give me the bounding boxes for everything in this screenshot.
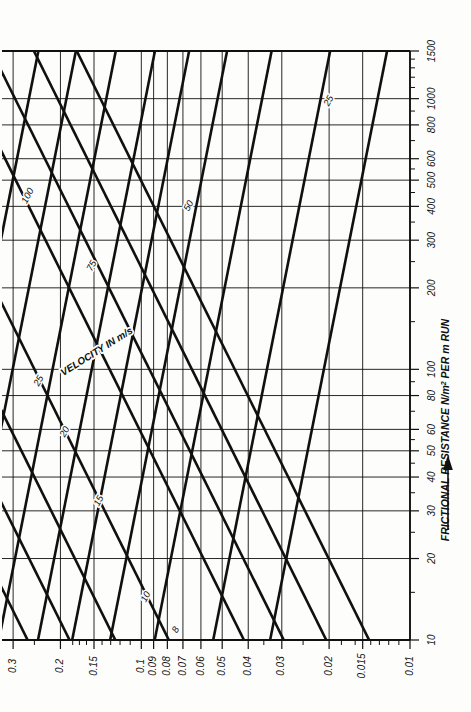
tick-label-diameter: 0.2: [54, 659, 65, 673]
resistance-axis-title: FRICTIONAL RESISTANCE N/m2 PER m RUN: [439, 318, 451, 541]
tick-label-resistance: 200: [426, 279, 437, 297]
tick-label-diameter: 0.03: [275, 656, 286, 676]
chart-page: 1020304050608010020030040050060080010001…: [0, 0, 471, 712]
tick-label-resistance: 40: [426, 471, 437, 483]
tick-label-diameter: 0.01: [404, 656, 415, 675]
tick-label-resistance: 50: [426, 445, 437, 457]
tick-label-diameter: 0.15: [88, 656, 99, 676]
tick-label-resistance: 100: [426, 361, 437, 378]
tick-label-diameter: 0.04: [242, 656, 253, 676]
tick-label-diameter: 0.08: [161, 656, 172, 676]
tick-label-diameter: 0.1: [135, 659, 146, 673]
tick-label-resistance: 1500: [426, 39, 437, 62]
chart-svg: 1020304050608010020030040050060080010001…: [0, 0, 471, 712]
resistance-axis-title-group: FRICTIONAL RESISTANCE N/m2 PER m RUN: [439, 318, 453, 541]
tick-label-resistance: 300: [426, 231, 437, 248]
chart-background: [0, 0, 471, 712]
tick-label-resistance: 10: [426, 634, 437, 646]
duct-sizing-chart-figure: 1020304050608010020030040050060080010001…: [0, 0, 471, 712]
tick-label-diameter: 0.02: [323, 656, 334, 676]
tick-label-resistance: 60: [426, 423, 437, 435]
tick-label-resistance: 800: [426, 116, 437, 133]
tick-label-diameter: 0.07: [177, 656, 188, 676]
tick-label-resistance: 20: [426, 553, 437, 566]
tick-label-resistance: 500: [426, 171, 437, 188]
tick-label-diameter: 0.05: [216, 656, 227, 676]
tick-label-diameter: 0.09: [147, 656, 158, 676]
tick-label-resistance: 400: [426, 198, 437, 215]
tick-label-resistance: 600: [426, 150, 437, 167]
tick-label-resistance: 80: [426, 390, 437, 402]
tick-label-diameter: 0.06: [195, 656, 206, 676]
tick-label-resistance: 1000: [426, 87, 437, 110]
tick-label-resistance: 30: [426, 505, 437, 517]
tick-label-diameter: 0.3: [7, 659, 18, 673]
tick-label-diameter: 0.015: [356, 653, 367, 678]
